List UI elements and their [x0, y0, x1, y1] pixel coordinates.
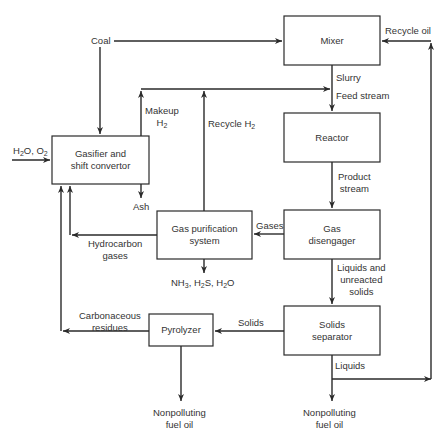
gas-purification-line2: system	[189, 235, 219, 247]
gasifier-label: Gasifier and shift convertor	[52, 136, 149, 184]
coal-label: Coal	[91, 35, 111, 47]
reactor-label: Reactor	[284, 113, 380, 162]
hydrocarbon-line2: gases	[88, 250, 142, 262]
gas-disengager-label: Gas disengager	[284, 210, 380, 259]
gasifier-line2: shift convertor	[71, 160, 131, 172]
liquids-unreacted-line2: unreacted	[337, 274, 386, 286]
carbonaceous-residues-label: Carbonaceous residues	[79, 310, 141, 334]
hydrocarbon-gases-label: Hydrocarbon gases	[88, 238, 142, 262]
liquids-unreacted-line3: solids	[337, 286, 386, 298]
carbonaceous-line2: residues	[79, 322, 141, 334]
recycle-h2-text: Recycle H	[208, 118, 251, 129]
liquids-unreacted-line1: Liquids and	[337, 262, 386, 274]
recycle-h2-label: Recycle H2	[208, 118, 255, 130]
nonpolluting-right-line1: Nonpolluting	[303, 407, 356, 419]
slurry-label: Slurry	[336, 72, 361, 84]
solids-label: Solids	[238, 317, 264, 329]
feed-stream-label: Feed stream	[336, 90, 389, 102]
nonpolluting-fuel-oil-left: Nonpolluting fuel oil	[153, 407, 206, 431]
h2o-h: H	[13, 145, 20, 156]
product-stream-line2: stream	[338, 183, 371, 195]
makeup-sub: 2	[163, 122, 167, 129]
nh: NH	[171, 277, 185, 288]
gas-purification-label: Gas purification system	[157, 211, 252, 259]
liquids-unreacted-label: Liquids and unreacted solids	[337, 262, 386, 298]
makeup-line2: H2	[145, 117, 179, 129]
h2o-h-bp: S, H	[205, 277, 223, 288]
h2o-o2-label: H2O, O2	[13, 145, 48, 157]
makeup-line1: Makeup	[145, 105, 179, 117]
gases-label: Gases	[256, 220, 283, 232]
nonpolluting-left-line2: fuel oil	[153, 419, 206, 431]
pyrolyzer-label: Pyrolyzer	[149, 314, 213, 346]
recycle-h2-sub: 2	[251, 123, 255, 130]
o2-text: O, O	[24, 145, 44, 156]
solids-separator-line2: separator	[312, 331, 352, 343]
h2o-o-bp: O	[227, 277, 234, 288]
solids-separator-label: Solids separator	[284, 306, 380, 355]
solids-separator-line1: Solids	[319, 319, 345, 331]
nonpolluting-left-line1: Nonpolluting	[153, 407, 206, 419]
makeup-h2-label: Makeup H2	[145, 105, 179, 129]
recycle-oil-label: Recycle oil	[385, 25, 431, 37]
nonpolluting-fuel-oil-right: Nonpolluting fuel oil	[303, 407, 356, 431]
gas-disengager-line2: disengager	[308, 235, 355, 247]
gas-disengager-line1: Gas	[323, 223, 340, 235]
gasifier-line1: Gasifier and	[75, 148, 126, 160]
product-stream-line1: Product	[338, 171, 371, 183]
mixer-label: Mixer	[284, 16, 380, 65]
h2s-h: , H	[189, 277, 201, 288]
ash-label: Ash	[133, 201, 149, 213]
o2-sub: 2	[44, 150, 48, 157]
byproducts-label: NH3, H2S, H2O	[171, 277, 234, 289]
liquids-label: Liquids	[335, 360, 365, 372]
nonpolluting-right-line2: fuel oil	[303, 419, 356, 431]
carbonaceous-line1: Carbonaceous	[79, 310, 141, 322]
hydrocarbon-line1: Hydrocarbon	[88, 238, 142, 250]
gas-purification-line1: Gas purification	[171, 223, 237, 235]
product-stream-label: Product stream	[338, 171, 371, 195]
